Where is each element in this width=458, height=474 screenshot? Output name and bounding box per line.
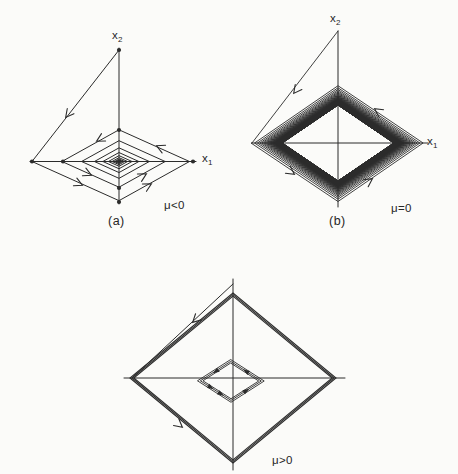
- crossing-dot: [191, 159, 195, 163]
- crossing-dot: [61, 159, 65, 163]
- crossing-dot: [117, 48, 121, 52]
- trajectory-spiral: [32, 50, 189, 201]
- figure-a-group: [30, 48, 196, 204]
- fig-c-mu-label: μ>0: [272, 455, 293, 467]
- fig-b-mu-label: μ=0: [391, 203, 412, 215]
- fig-a-x1-axis-label: x1: [202, 153, 213, 167]
- trajectory-spiral: [251, 31, 423, 202]
- crossing-dot: [117, 186, 121, 190]
- direction-arrow-icon: [155, 142, 166, 153]
- fig-b-x2-axis-label: x2: [330, 13, 341, 27]
- crossing-dot: [117, 200, 121, 204]
- direction-arrow-icon: [95, 134, 106, 145]
- crossing-dot: [30, 159, 34, 163]
- fig-b-caption: (b): [329, 215, 346, 228]
- direction-arrow-icon: [73, 178, 84, 189]
- fig-a-x2-axis-label: x2: [112, 30, 123, 44]
- phase-portrait-figure: x2 x1 μ<0 (a) x2 x1 μ=0 (b) μ>0: [0, 0, 458, 474]
- phase-portrait-canvas: [0, 0, 458, 474]
- inner-limit-cycle: [198, 360, 264, 403]
- fig-a-caption: (a): [108, 215, 125, 228]
- crossing-dot: [117, 128, 121, 132]
- figure-c-group: [124, 279, 345, 470]
- figure-b-group: [251, 31, 428, 207]
- fig-a-mu-label: μ<0: [164, 200, 185, 212]
- inner-limit-cycle: [203, 363, 258, 398]
- fig-b-x1-axis-label: x1: [427, 136, 438, 150]
- inner-limit-cycle: [201, 362, 262, 401]
- direction-arrow-icon: [142, 180, 153, 191]
